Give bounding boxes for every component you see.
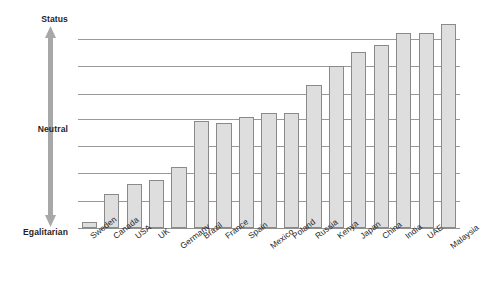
x-axis-baseline [78,228,460,229]
bar-slot [258,18,280,228]
plot-area [78,18,460,229]
axis-label-egalitarian: Egalitarian [0,227,68,237]
tick-slot: UAE [415,231,437,283]
tick-slot: Spain [235,231,257,283]
tick-slot: Brazil [190,231,212,283]
bar[interactable] [441,24,456,228]
tick-slot: Mexico [258,231,280,283]
bar-slot [145,18,167,228]
bar[interactable] [216,123,231,228]
tick-slot: Germany [168,231,190,283]
bar-slot [235,18,257,228]
bar-slot [190,18,212,228]
bar[interactable] [306,85,321,228]
bar-slot [213,18,235,228]
axis-label-status: Status [0,14,68,24]
bar-slot [168,18,190,228]
bar-slot [393,18,415,228]
tick-slot: China [370,231,392,283]
tick-slot: India [393,231,415,283]
tick-slot: Poland [280,231,302,283]
bar[interactable] [194,121,209,228]
tick-slot: Malaysia [438,231,460,283]
bar[interactable] [239,117,254,228]
bar[interactable] [149,180,164,228]
tick-slot: Russia [303,231,325,283]
bar[interactable] [284,113,299,229]
tick-slot: USA [123,231,145,283]
bar-slot [438,18,460,228]
bar-slot [303,18,325,228]
bar[interactable] [351,52,366,228]
bar[interactable] [374,45,389,228]
bar-slot [78,18,100,228]
tick-slot: France [213,231,235,283]
tick-slot: Sweden [78,231,100,283]
bar[interactable] [329,66,344,228]
axis-label-neutral: Neutral [0,124,68,134]
bar-series [78,18,460,228]
bar[interactable] [171,167,186,228]
bar-slot [370,18,392,228]
tick-slot: Canada [100,231,122,283]
bar-slot [348,18,370,228]
tick-slot: UK [145,231,167,283]
tick-slot: Kenya [325,231,347,283]
bar-slot [415,18,437,228]
bar[interactable] [261,113,276,229]
bar-slot [100,18,122,228]
tick-slot: Japan [348,231,370,283]
bar[interactable] [419,33,434,228]
bar[interactable] [396,33,411,228]
bar-slot [280,18,302,228]
bar-slot [123,18,145,228]
x-axis-tick-labels: SwedenCanadaUSAUKGermanyBrazilFranceSpai… [78,231,460,283]
bar-slot [325,18,347,228]
